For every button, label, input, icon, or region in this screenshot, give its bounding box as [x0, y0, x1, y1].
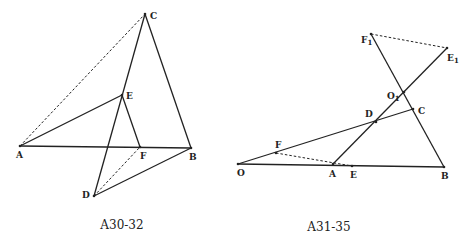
point-f [139, 146, 142, 149]
point-o1 [403, 91, 406, 94]
point-d [375, 121, 378, 124]
point-label-d: D [365, 109, 373, 119]
dashed-segment-f1-e1 [371, 34, 447, 48]
point-f [275, 152, 278, 155]
segment-a-b [20, 146, 191, 148]
point-label-b: B [189, 152, 197, 162]
point-label-e1: E1 [447, 53, 459, 65]
point-e1 [446, 47, 449, 50]
figure-a30-32: ABCDEF [15, 11, 197, 200]
point-e [351, 165, 354, 168]
point-d [93, 195, 96, 198]
point-a [332, 163, 335, 166]
point-e [121, 94, 124, 97]
point-label-c: C [150, 11, 157, 21]
figure-a31-35: OABCDEFF1E1O1 [237, 33, 459, 181]
point-c [144, 13, 147, 16]
point-label-a: A [15, 150, 24, 160]
dashed-segment-f-e [276, 153, 352, 166]
segment-o-c [238, 109, 413, 164]
point-label-a: A [328, 169, 337, 179]
segment-e-f [122, 95, 140, 147]
caption-a30-32: A30-32 [99, 218, 143, 232]
point-o [237, 163, 240, 166]
point-b [190, 147, 193, 150]
geometry-figures: ABCDEF OABCDEFF1E1O1 A30-32 A31-35 [0, 0, 470, 246]
point-f1 [370, 33, 373, 36]
point-label-d: D [82, 190, 90, 200]
point-label-o1: O1 [387, 91, 400, 103]
point-label-f: F [275, 140, 282, 150]
point-label-e: E [350, 170, 357, 180]
point-c [412, 108, 415, 111]
segment-a-e1 [333, 48, 447, 164]
point-label-b: B [441, 171, 449, 181]
point-label-f: F [140, 151, 147, 161]
point-label-c: C [418, 106, 425, 116]
caption-a31-35: A31-35 [306, 220, 350, 234]
segment-f1-b [371, 34, 444, 167]
segment-o-b [238, 164, 444, 167]
point-label-f1: F1 [361, 35, 372, 47]
point-label-e: E [126, 91, 133, 101]
diagram-canvas: ABCDEF OABCDEFF1E1O1 A30-32 A31-35 [0, 0, 470, 246]
point-b [443, 166, 446, 169]
segment-a-e [20, 95, 122, 146]
point-a [19, 145, 22, 148]
segment-c-b [145, 14, 191, 148]
point-label-o: O [237, 168, 245, 178]
